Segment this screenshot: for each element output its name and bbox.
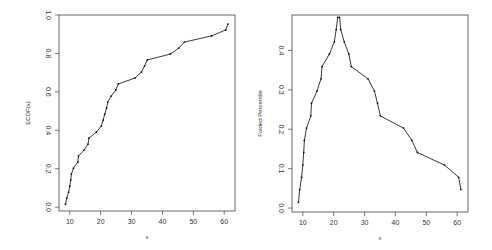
data-point: [460, 189, 462, 191]
y-tick-label: 0.0: [45, 202, 52, 212]
data-point: [69, 185, 71, 187]
x-axis-label: x: [379, 235, 382, 241]
data-point: [299, 189, 301, 191]
x-tick-label: 30: [361, 219, 369, 226]
data-point: [227, 23, 229, 25]
x-tick-label: 30: [128, 218, 136, 225]
x-tick-label: 40: [392, 219, 400, 226]
data-point: [348, 53, 350, 55]
x-tick-label: 60: [453, 219, 461, 226]
data-point: [458, 176, 460, 178]
data-point: [343, 41, 345, 43]
data-point: [306, 127, 308, 129]
y-tick-label: 0.8: [45, 49, 52, 59]
data-point: [337, 16, 339, 18]
data-point: [303, 139, 305, 141]
y-tick-label: 0.1: [278, 164, 285, 174]
data-point: [340, 29, 342, 31]
x-tick-label: 10: [299, 219, 307, 226]
data-point: [134, 77, 136, 79]
y-tick-label: 0.0: [278, 203, 285, 213]
folded-percentile-plot: 1020304050600.00.10.20.30.4xFolded Perce…: [257, 15, 468, 241]
data-point: [95, 131, 97, 133]
data-point: [102, 119, 104, 121]
data-point: [310, 115, 312, 117]
x-tick-label: 20: [97, 218, 105, 225]
data-point: [178, 47, 180, 49]
data-point: [115, 89, 117, 91]
data-point: [100, 125, 102, 127]
data-point: [302, 164, 304, 166]
data-point: [66, 197, 68, 199]
data-point: [335, 29, 337, 31]
data-point: [377, 102, 379, 104]
data-point: [333, 41, 335, 43]
data-point: [298, 201, 300, 203]
y-tick-label: 0.2: [278, 124, 285, 134]
data-point: [303, 152, 305, 154]
data-point: [183, 41, 185, 43]
x-axis-label: x: [146, 234, 149, 240]
data-point: [141, 71, 143, 73]
data-point: [211, 35, 213, 37]
data-point: [68, 191, 70, 193]
data-point: [320, 78, 322, 80]
data-point: [367, 78, 369, 80]
data-point: [104, 113, 106, 115]
data-point: [73, 167, 75, 169]
data-point: [301, 176, 303, 178]
data-point: [379, 115, 381, 117]
data-point: [416, 152, 418, 154]
y-axis-label: Folded Percentile: [257, 89, 263, 136]
chart-canvas: 1020304050600.00.20.40.60.81.0xECDF(x) 1…: [0, 0, 492, 250]
data-point: [225, 29, 227, 31]
data-point: [77, 161, 79, 163]
x-tick-label: 60: [220, 218, 228, 225]
data-line: [66, 24, 228, 204]
ecdf-plot: 1020304050600.00.20.40.60.81.0xECDF(x): [25, 10, 235, 240]
data-point: [144, 65, 146, 67]
data-point: [328, 53, 330, 55]
data-point: [311, 102, 313, 104]
data-point: [107, 101, 109, 103]
data-point: [339, 16, 341, 18]
y-axis-label: ECDF(x): [25, 101, 31, 124]
y-tick-label: 0.6: [45, 87, 52, 97]
data-point: [350, 66, 352, 68]
data-point: [83, 149, 85, 151]
data-point: [106, 107, 108, 109]
data-point: [444, 164, 446, 166]
x-tick-label: 50: [189, 218, 197, 225]
data-point: [110, 95, 112, 97]
data-point: [374, 90, 376, 92]
x-tick-label: 10: [66, 218, 74, 225]
y-tick-label: 0.2: [45, 164, 52, 174]
data-point: [117, 83, 119, 85]
data-line: [299, 17, 461, 202]
x-tick-label: 50: [422, 219, 430, 226]
y-tick-label: 0.4: [45, 125, 52, 135]
y-tick-label: 0.4: [278, 46, 285, 56]
data-point: [321, 66, 323, 68]
x-tick-label: 40: [159, 218, 167, 225]
x-tick-label: 20: [330, 219, 338, 226]
data-point: [411, 139, 413, 141]
y-tick-label: 0.3: [278, 85, 285, 95]
data-point: [316, 90, 318, 92]
data-point: [146, 59, 148, 61]
data-point: [65, 203, 67, 205]
data-point: [87, 143, 89, 145]
data-point: [78, 155, 80, 157]
data-point: [403, 127, 405, 129]
data-point: [70, 173, 72, 175]
data-point: [170, 53, 172, 55]
data-point: [70, 179, 72, 181]
plot-frame: [59, 15, 235, 211]
y-tick-label: 1.0: [45, 10, 52, 20]
data-point: [88, 137, 90, 139]
